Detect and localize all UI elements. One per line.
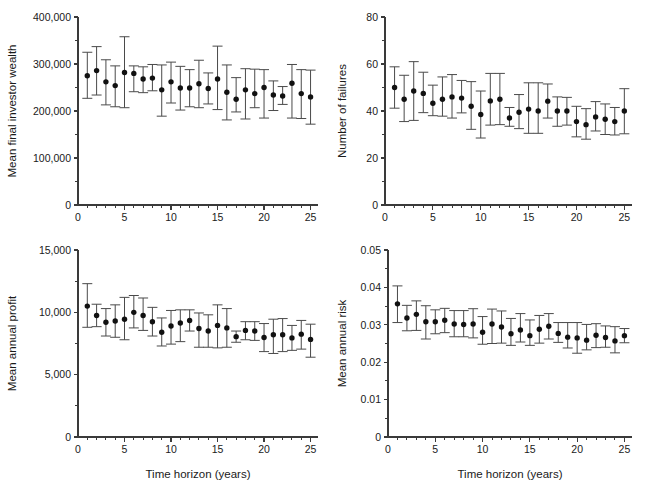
data-point [534, 315, 544, 343]
y-tick-label: 5,000 [45, 368, 71, 380]
data-point [619, 329, 629, 343]
y-axis-label: Number of failures [336, 64, 348, 158]
x-tick-label: 0 [385, 443, 391, 455]
data-point [421, 306, 431, 339]
data-point [138, 67, 148, 93]
data-point [110, 305, 120, 337]
data-point [157, 65, 167, 116]
data-point [185, 310, 195, 331]
data-point [250, 69, 260, 108]
panel-bottom-left: 05,00010,00015,0000510152025Mean annual … [0, 232, 330, 489]
data-point [240, 69, 250, 119]
data-point [185, 70, 195, 107]
axis-spine [388, 250, 632, 437]
axis-spine [385, 17, 632, 205]
data-point [213, 305, 223, 348]
data-series [82, 284, 315, 358]
data-point [166, 310, 176, 344]
data-point [515, 314, 525, 342]
data-point [440, 308, 450, 332]
data-point [392, 286, 402, 323]
x-tick-label: 20 [258, 443, 270, 455]
data-point [296, 320, 306, 349]
data-point [82, 52, 92, 98]
x-tick-label: 25 [618, 211, 630, 223]
data-point [92, 304, 102, 326]
data-point [231, 78, 241, 112]
y-tick-label: 300,000 [33, 58, 71, 70]
data-point [399, 75, 409, 121]
data-point [240, 322, 250, 340]
data-point [147, 307, 157, 336]
y-axis-label: Mean annual profit [6, 295, 18, 391]
data-point [418, 72, 428, 112]
data-point [601, 326, 611, 347]
x-tick-label: 20 [571, 443, 583, 455]
data-point [457, 80, 467, 112]
data-point [553, 323, 563, 343]
data-point [82, 284, 92, 328]
x-tick-label: 15 [212, 443, 224, 455]
data-point [101, 309, 111, 336]
x-tick-label: 10 [475, 211, 487, 223]
y-tick-label: 60 [366, 58, 378, 70]
data-point [411, 301, 421, 331]
data-point [487, 309, 497, 343]
x-tick-label: 15 [212, 211, 224, 223]
data-point [129, 66, 139, 92]
data-point [449, 311, 459, 337]
data-point [166, 62, 176, 103]
data-point [552, 97, 562, 126]
y-tick-label: 0.04 [361, 281, 382, 293]
x-tick-label: 0 [382, 211, 388, 223]
y-tick-label: 0.03 [361, 319, 382, 331]
data-point [514, 95, 524, 129]
y-tick-label: 0.05 [361, 244, 382, 256]
data-point [582, 324, 592, 349]
y-tick-label: 80 [366, 11, 378, 23]
data-point [591, 102, 601, 131]
data-point [619, 89, 629, 134]
y-tick-label: 0 [65, 199, 71, 211]
data-point [259, 70, 269, 118]
data-point [591, 324, 601, 348]
data-point [562, 97, 572, 125]
data-point [543, 84, 553, 118]
data-point [147, 64, 157, 90]
data-point [409, 62, 419, 121]
data-point [466, 82, 476, 130]
data-point [610, 327, 620, 353]
data-point [259, 324, 269, 352]
data-point [485, 73, 495, 125]
data-point [138, 298, 148, 330]
y-tick-label: 15,000 [39, 244, 71, 256]
data-point [476, 91, 486, 138]
y-axis-label: Mean annual risk [336, 299, 348, 387]
data-point [287, 64, 297, 118]
x-tick-label: 20 [258, 211, 270, 223]
data-point [194, 313, 204, 347]
data-point [525, 320, 535, 345]
y-tick-label: 40 [366, 105, 378, 117]
y-tick-label: 0.02 [361, 356, 382, 368]
data-point [600, 104, 610, 135]
mean-final-investor-wealth-plot: 0100,000200,000300,000400,0000510152025M… [0, 0, 330, 232]
data-point [231, 331, 241, 342]
x-tick-label: 15 [523, 211, 535, 223]
axis-spine [78, 17, 318, 205]
data-point [478, 317, 488, 345]
data-point [175, 310, 185, 342]
axis-spine [78, 250, 318, 437]
data-point [581, 109, 591, 140]
x-tick-label: 10 [477, 443, 489, 455]
data-point [157, 318, 167, 346]
data-point [268, 81, 278, 111]
data-point [278, 319, 288, 352]
data-point [610, 107, 620, 134]
data-point [544, 314, 554, 339]
x-axis-label: Time horizon (years) [457, 468, 562, 480]
data-point [101, 60, 111, 105]
x-tick-label: 15 [524, 443, 536, 455]
data-point [468, 309, 478, 338]
y-axis-label: Mean final investor wealth [6, 45, 18, 178]
